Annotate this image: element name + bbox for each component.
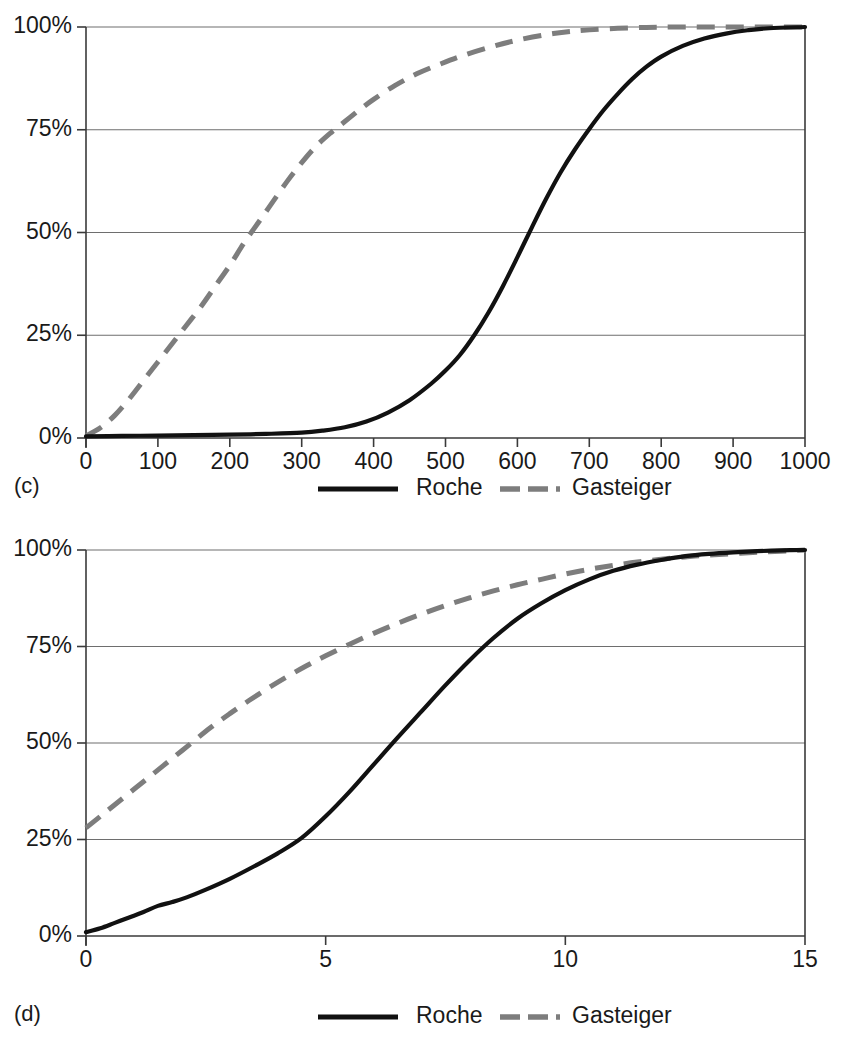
legend-label-roche: Roche — [416, 474, 482, 500]
x-tick-label-200: 200 — [211, 448, 249, 474]
legend-label-gasteiger: Gasteiger — [572, 474, 672, 500]
legend-label-roche: Roche — [416, 1002, 482, 1028]
series-line-roche — [86, 27, 805, 436]
series-line-gasteiger — [86, 550, 805, 828]
x-tick-label-300: 300 — [283, 448, 321, 474]
figure-page: 0%25%50%75%100%0100200300400500600700800… — [0, 0, 846, 1048]
x-tick-label-0: 0 — [80, 946, 93, 972]
x-tick-label-100: 100 — [139, 448, 177, 474]
y-tick-label-100: 100% — [13, 12, 72, 38]
y-tick-label-0: 0% — [39, 423, 72, 449]
y-tick-label-50: 50% — [26, 218, 72, 244]
legend-label-gasteiger: Gasteiger — [572, 1002, 672, 1028]
series-line-roche — [86, 550, 805, 932]
y-tick-label-100: 100% — [13, 535, 72, 561]
x-tick-label-0: 0 — [80, 448, 93, 474]
x-tick-label-900: 900 — [714, 448, 752, 474]
x-tick-label-10: 10 — [553, 946, 579, 972]
y-tick-label-50: 50% — [26, 728, 72, 754]
series-line-gasteiger — [86, 27, 805, 436]
chart-svg-d: 0%25%50%75%100%051015(d)RocheGasteiger — [0, 520, 846, 1048]
x-tick-label-500: 500 — [426, 448, 464, 474]
y-tick-label-25: 25% — [26, 825, 72, 851]
chart-panel-c: 0%25%50%75%100%0100200300400500600700800… — [0, 0, 846, 520]
chart-panel-d: 0%25%50%75%100%051015(d)RocheGasteiger — [0, 520, 846, 1048]
chart-svg-c: 0%25%50%75%100%0100200300400500600700800… — [0, 0, 846, 520]
y-tick-label-0: 0% — [39, 921, 72, 947]
x-tick-label-5: 5 — [319, 946, 332, 972]
panel-label-d: (d) — [14, 1001, 41, 1026]
panel-label-c: (c) — [14, 473, 40, 498]
y-tick-label-75: 75% — [26, 632, 72, 658]
x-tick-label-15: 15 — [792, 946, 818, 972]
y-tick-label-75: 75% — [26, 115, 72, 141]
x-tick-label-1000: 1000 — [779, 448, 830, 474]
x-tick-label-600: 600 — [498, 448, 536, 474]
x-tick-label-400: 400 — [354, 448, 392, 474]
x-tick-label-800: 800 — [642, 448, 680, 474]
x-tick-label-700: 700 — [570, 448, 608, 474]
y-tick-label-25: 25% — [26, 320, 72, 346]
